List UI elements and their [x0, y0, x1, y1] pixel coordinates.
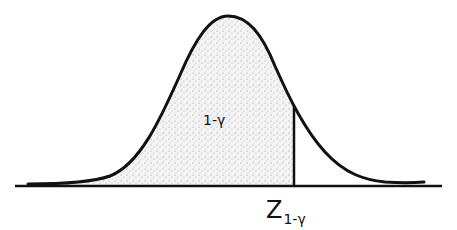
critical-value-label: Z1-γ: [266, 196, 306, 224]
z-symbol: Z: [266, 196, 282, 224]
z-subscript: 1-γ: [283, 211, 305, 227]
shaded-area: [28, 16, 294, 186]
shaded-area-label: 1-γ: [203, 112, 225, 128]
normal-curve-diagram: [0, 0, 457, 230]
